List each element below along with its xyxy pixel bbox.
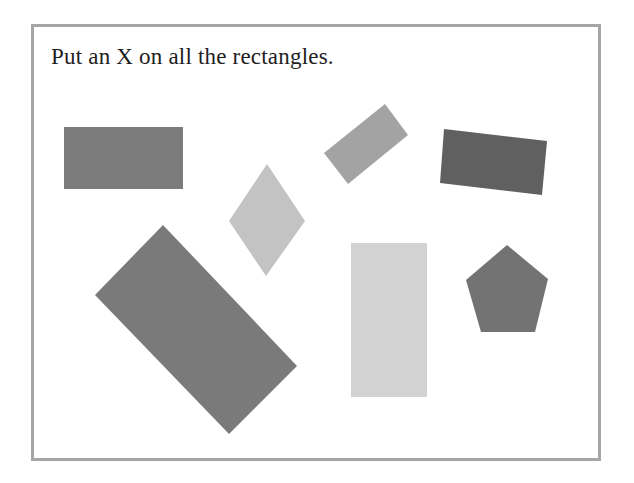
shapes-canvas bbox=[0, 0, 634, 483]
shape-rect-tall[interactable] bbox=[351, 243, 427, 397]
shape-rhombus[interactable] bbox=[229, 164, 305, 276]
shape-rect-small-tilted[interactable] bbox=[324, 104, 408, 184]
shape-pentagon[interactable] bbox=[466, 245, 548, 332]
shape-rect-top-left[interactable] bbox=[64, 127, 183, 189]
shape-rect-dark-tilted[interactable] bbox=[440, 129, 547, 195]
